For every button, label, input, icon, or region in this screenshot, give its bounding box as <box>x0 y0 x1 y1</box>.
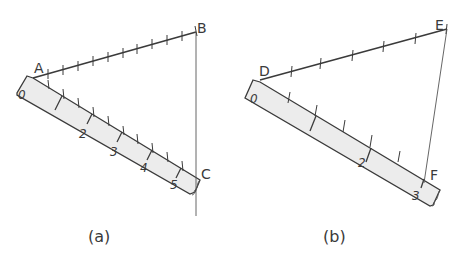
point-d-label: D <box>259 63 270 79</box>
point-a-label: A <box>34 60 44 76</box>
point-b-label: B <box>197 20 207 36</box>
ruler-b-number-0: 0 <box>250 92 258 106</box>
segment-ab <box>33 32 196 78</box>
ruler-a-number-5: 5 <box>170 178 178 192</box>
caption-b: (b) <box>323 227 346 246</box>
segment-ef <box>424 29 447 183</box>
ruler-a-number-2: 2 <box>79 127 87 141</box>
ruler-a-number-0: 0 <box>18 88 26 102</box>
ruler-b-number-2: 2 <box>358 156 366 170</box>
ruler-a-number-4: 4 <box>140 161 148 175</box>
segment-de <box>260 29 447 80</box>
point-f-label: F <box>430 167 438 183</box>
point-e-label: E <box>435 17 444 33</box>
ruler-b-number-3: 3 <box>412 189 420 203</box>
caption-a: (a) <box>88 227 110 246</box>
ruler-a-number-3: 3 <box>110 145 118 159</box>
geometry-diagram: 0 2 3 4 5 A B C (a) <box>0 0 463 257</box>
figure-a: 0 2 3 4 5 A B C (a) <box>17 20 211 246</box>
ruler-a <box>17 76 200 194</box>
ruler-b <box>245 80 440 206</box>
segment-ab-ticks <box>48 26 197 79</box>
figure-b: 0 2 3 D E F (b) <box>245 17 447 246</box>
point-c-label: C <box>201 166 211 182</box>
